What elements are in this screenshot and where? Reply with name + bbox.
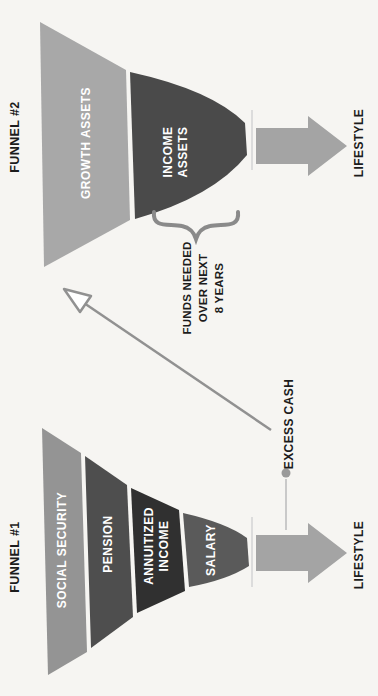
- funnel-2-label-assets: ASSETS: [176, 126, 190, 177]
- diagram-viewport: FUNNEL #1 SOCIAL SECURITY PENSION ANNUIT…: [0, 0, 378, 696]
- funds-needed-line-1: FUNDS NEEDED: [181, 241, 193, 334]
- funnel-1-label-social-security: SOCIAL SECURITY: [55, 492, 69, 609]
- excess-cash-label: EXCESS CASH: [282, 379, 296, 469]
- funnel-1-title: FUNNEL #1: [8, 521, 22, 592]
- excess-cash-arrow-head-icon: [64, 289, 91, 312]
- excess-cash-arrow-line: [84, 303, 271, 430]
- funnel-2-lifestyle-label: LIFESTYLE: [352, 109, 366, 177]
- funds-needed-group: FUNDS NEEDED OVER NEXT 8 YEARS: [154, 212, 238, 335]
- funnel-1-label-annuitized: ANNUITIZED: [142, 507, 156, 585]
- funnel-1-label-salary: SALARY: [204, 524, 218, 576]
- funnel-1-label-pension: PENSION: [101, 515, 115, 573]
- excess-cash-dot: [282, 469, 291, 478]
- funnel-1-lifestyle-label: LIFESTYLE: [352, 521, 366, 589]
- funnel-2-lifestyle-arrow: [256, 116, 347, 176]
- funnel-2-label-growth-assets: GROWTH ASSETS: [79, 87, 93, 199]
- funnel-1-label-annuitized-income: INCOME: [157, 521, 171, 572]
- funds-needed-brace-icon: [154, 212, 238, 239]
- funnel-1-group: FUNNEL #1 SOCIAL SECURITY PENSION ANNUIT…: [8, 428, 366, 675]
- funds-needed-line-2: OVER NEXT: [197, 254, 209, 322]
- funnel-1-lifestyle-arrow: [256, 523, 347, 583]
- funnel-diagram: FUNNEL #1 SOCIAL SECURITY PENSION ANNUIT…: [0, 0, 378, 696]
- funnel-2-title: FUNNEL #2: [8, 101, 22, 172]
- funnel-2-label-income: INCOME: [161, 127, 175, 178]
- funds-needed-line-3: 8 YEARS: [213, 263, 225, 314]
- funnel-2-group: FUNNEL #2 GROWTH ASSETS INCOME ASSETS LI…: [8, 22, 366, 267]
- funnel-diagram-stage: FUNNEL #1 SOCIAL SECURITY PENSION ANNUIT…: [0, 0, 378, 696]
